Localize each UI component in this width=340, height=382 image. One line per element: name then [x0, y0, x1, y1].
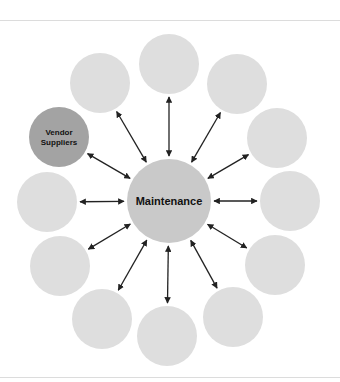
node-left [17, 172, 77, 232]
node-bottom [137, 306, 197, 366]
nodes: VendorSuppliersMaintenance [17, 34, 320, 366]
node-circle [72, 289, 132, 349]
node-vendor-suppliers: VendorSuppliers [29, 107, 89, 167]
node-circle [203, 287, 263, 347]
node-left-lower [30, 236, 90, 296]
center-label: Maintenance [136, 195, 203, 207]
node-upper-right [207, 54, 267, 114]
node-center-maintenance: Maintenance [127, 159, 211, 243]
arrow-bottom-left [118, 240, 146, 290]
node-circle [139, 34, 199, 94]
arrow-bottom-right [191, 240, 217, 288]
arrow-right-upper [208, 155, 249, 179]
arrow-upper-left [117, 111, 147, 162]
arrow-upper-right [192, 113, 221, 163]
node-circle [245, 235, 305, 295]
arrow-left-lower [88, 224, 130, 249]
node-right-upper [247, 108, 307, 168]
node-bottom-left [72, 289, 132, 349]
arrow-bottom [167, 246, 168, 303]
node-bottom-right [203, 287, 263, 347]
node-circle [29, 107, 89, 167]
arrow-vendor-suppliers [88, 154, 131, 179]
node-right-lower [245, 235, 305, 295]
node-label: VendorSuppliers [41, 128, 78, 147]
node-circle [247, 108, 307, 168]
node-circle [17, 172, 77, 232]
node-circle [70, 53, 130, 113]
node-circle [137, 306, 197, 366]
node-upper-left [70, 53, 130, 113]
node-circle [207, 54, 267, 114]
node-circle [260, 171, 320, 231]
node-top [139, 34, 199, 94]
node-circle [30, 236, 90, 296]
hub-spoke-diagram: VendorSuppliersMaintenance [0, 0, 340, 382]
node-right [260, 171, 320, 231]
arrow-right-lower [208, 224, 247, 248]
